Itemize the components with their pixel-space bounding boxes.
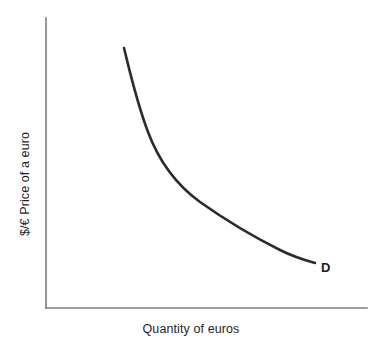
price-axis-title: $/€ Price of a euro [18, 0, 32, 236]
demand-curve-label: D [321, 260, 330, 275]
demand-curve-path [124, 48, 315, 263]
chart-canvas: D [0, 0, 382, 354]
exchange-rate-demand-chart: D $/€ Price of a euro Quantity of euros [0, 0, 382, 354]
quantity-axis-title: Quantity of euros [0, 322, 382, 336]
